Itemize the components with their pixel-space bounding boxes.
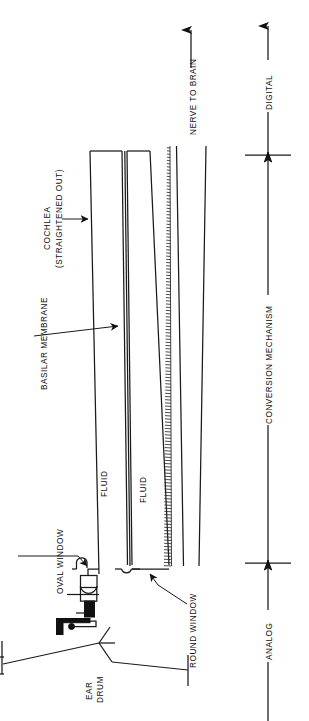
ear-canal [0, 641, 99, 674]
oval-window [72, 558, 99, 576]
fluid-label-upper: FLUID [100, 471, 109, 497]
hair-cells [164, 146, 172, 566]
basilar-membrane-label: BASILAR MEMBRANE [40, 297, 49, 390]
digital-label: DIGITAL [265, 75, 274, 110]
cochlea-upper-chamber [90, 151, 128, 574]
ear-drum-label-line1: EAR [85, 682, 94, 701]
cochlea-label-line1: COCHLEA [43, 207, 52, 250]
round-window-leader [150, 574, 187, 604]
ear-drum [99, 627, 115, 662]
analog-label: ANALOG [265, 623, 274, 660]
conversion-mechanism-label: CONVERSION MECHANISM [265, 306, 274, 424]
fluid-label-lower: FLUID [139, 477, 148, 503]
nerve-to-brain-label: NERVE TO BRAIN [189, 59, 198, 135]
auditory-nerve [177, 146, 207, 566]
ear-cochlea-diagram: EAR DRUM OVAL WINDOW [0, 0, 309, 721]
diagram-canvas: EAR DRUM OVAL WINDOW [0, 0, 309, 721]
cochlea-label-line2: (STRAIGHTENED OUT) [55, 169, 64, 268]
cochlea-lower-chamber [127, 151, 169, 569]
ear-drum-label-line2: DRUM [96, 676, 105, 703]
oval-window-label: OVAL WINDOW [56, 529, 65, 594]
round-window-label: ROUND WINDOW [189, 593, 198, 668]
